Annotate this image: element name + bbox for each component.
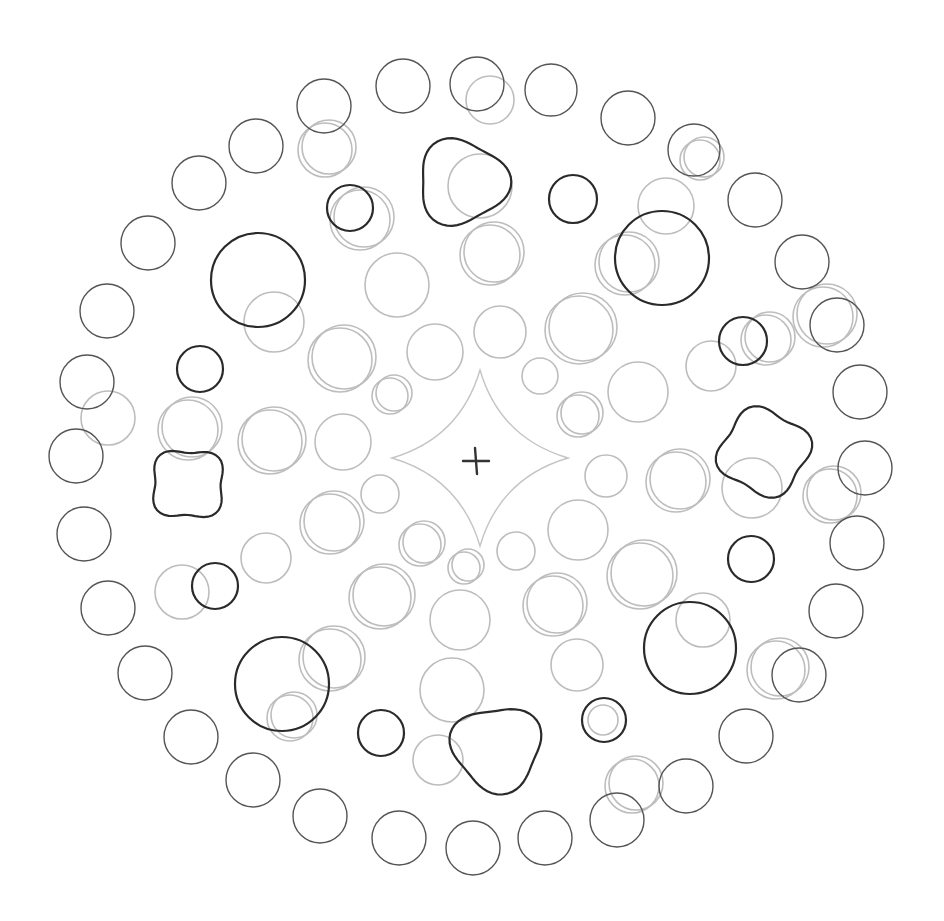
outer-ring-circles-layer [49,57,892,875]
pencil-drawing-canvas [0,0,944,921]
light-circles-layer [81,76,861,813]
center-diamond-shape [392,370,568,546]
center-cross-icon [463,448,489,474]
